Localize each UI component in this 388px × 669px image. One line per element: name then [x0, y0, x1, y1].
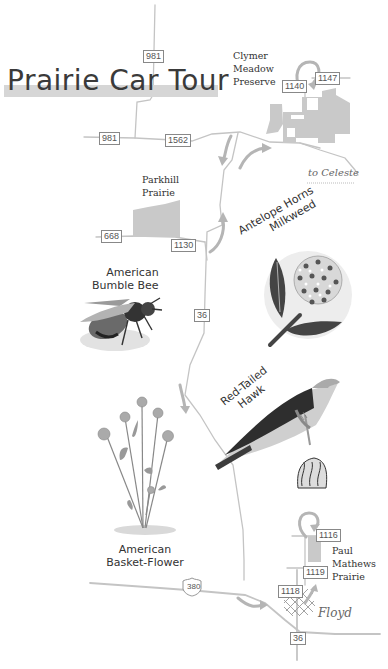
label-line: Parkhill	[142, 173, 179, 186]
road-shield-1562: 1562	[165, 134, 191, 147]
milkweed-illustration	[264, 251, 352, 345]
arrow-up-clymer	[240, 148, 265, 168]
prairie-car-tour-map: Prairie Car Tour 981 981 1562 1140 1147 …	[0, 0, 388, 669]
label-line: American	[100, 543, 190, 556]
label-line: Prairie	[142, 186, 179, 199]
label-line: Mathews	[332, 557, 376, 570]
road-shield-1147: 1147	[315, 72, 340, 85]
road-shield-981-west: 981	[99, 132, 120, 145]
road-shield-36-south: 36	[290, 632, 306, 645]
road-shield-1130: 1130	[171, 239, 196, 252]
label-floyd: Floyd	[318, 606, 352, 620]
road-shield-1118: 1118	[278, 585, 303, 598]
road-shield-us380: 380	[185, 581, 202, 592]
label-line: Bumble Bee	[92, 279, 159, 292]
parkhill-prairie-area	[133, 200, 180, 237]
label-line: Basket-Flower	[100, 556, 190, 569]
label-to-celeste: to Celeste	[308, 167, 359, 178]
label-american-bumble-bee: American Bumble Bee	[92, 266, 159, 292]
arrow-down-sh36	[180, 385, 185, 408]
label-line: Paul	[332, 544, 376, 557]
arrow-floyd	[238, 598, 263, 606]
label-paul-mathews-prairie: Paul Mathews Prairie	[332, 544, 376, 583]
label-american-basket-flower: American Basket-Flower	[100, 543, 190, 569]
label-line: Clymer	[233, 49, 276, 62]
road-shield-36-mid: 36	[194, 309, 210, 322]
label-line: American	[92, 266, 159, 279]
clymer-preserve-area	[266, 88, 350, 143]
bumble-bee-illustration	[80, 298, 162, 351]
label-clymer-meadow-preserve: Clymer Meadow Preserve	[233, 49, 276, 88]
map-canvas	[0, 0, 388, 669]
road-shield-668: 668	[101, 230, 122, 243]
label-parkhill-prairie: Parkhill Prairie	[142, 173, 179, 199]
road-shield-1119: 1119	[303, 566, 328, 579]
road-shield-981-north: 981	[143, 50, 164, 63]
basket-flower-illustration	[98, 397, 176, 535]
arrow-down-1562	[224, 136, 231, 158]
road-shield-1140: 1140	[282, 80, 307, 93]
road-sh36	[185, 133, 244, 580]
label-line: Meadow	[233, 62, 276, 75]
map-title: Prairie Car Tour	[7, 64, 229, 97]
road-shield-1116: 1116	[316, 529, 341, 542]
label-line: Preserve	[233, 75, 276, 88]
label-line: Prairie	[332, 570, 376, 583]
